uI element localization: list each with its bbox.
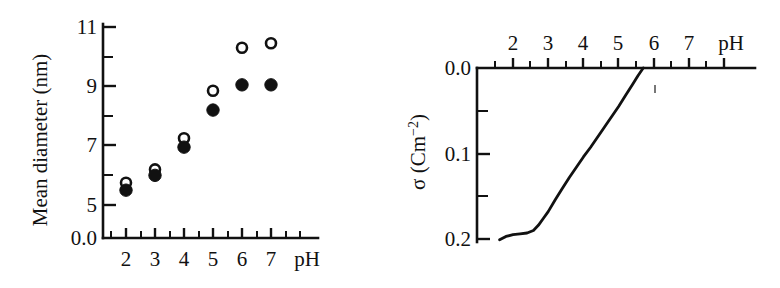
x-axis-title-left: pH	[294, 247, 320, 271]
x-tick-label-6: 6	[237, 247, 248, 271]
y-tick-label-0.0: 0.0	[445, 56, 471, 80]
y-tick-label-0.2: 0.2	[445, 227, 471, 251]
figure-container: Mean diameter (nm) 11 9 7 5 0.0	[0, 0, 780, 288]
sigma-ph-curve	[500, 68, 644, 240]
x-tick-label-7-right: 7	[684, 31, 695, 55]
data-point-open	[237, 43, 247, 53]
y-axis-title-unit-open: (Cm	[406, 136, 430, 179]
scatter-chart-mean-diameter: Mean diameter (nm) 11 9 7 5 0.0	[0, 0, 390, 288]
x-tick-label-2-right: 2	[508, 31, 519, 55]
y-tick-label-7: 7	[87, 133, 98, 157]
x-tick-label-4: 4	[179, 247, 190, 271]
data-point-group-left	[120, 38, 277, 196]
data-point-filled	[120, 184, 132, 196]
x-tick-label-4-right: 4	[578, 31, 589, 55]
data-point-filled	[265, 79, 277, 91]
x-tick-label-7: 7	[266, 247, 277, 271]
y-axis-ticks-right	[477, 111, 490, 239]
x-tick-label-2: 2	[121, 247, 132, 271]
y-tick-label-9: 9	[87, 74, 98, 98]
y-axis-title-unit-close: )	[406, 114, 430, 121]
x-tick-label-5-right: 5	[613, 31, 624, 55]
x-tick-label-3: 3	[150, 247, 161, 271]
y-axis-title-left: Mean diameter (nm)	[28, 54, 52, 227]
y-axis-origin-label-left: 0.0	[71, 226, 97, 250]
y-tick-label-0.1: 0.1	[445, 142, 471, 166]
y-axis-ticks-left	[103, 27, 116, 205]
chart-panel-left: Mean diameter (nm) 11 9 7 5 0.0	[0, 0, 390, 288]
x-tick-label-6-right: 6	[649, 31, 660, 55]
chart-panel-right: σ (Cm−2)	[390, 0, 780, 288]
x-tick-label-5: 5	[208, 247, 219, 271]
data-point-filled	[149, 169, 161, 181]
data-point-filled	[178, 141, 190, 153]
data-point-open	[266, 38, 276, 48]
x-axis-ticks-right	[495, 58, 724, 68]
x-tick-label-3-right: 3	[543, 31, 554, 55]
y-tick-label-11: 11	[77, 15, 97, 39]
x-axis-title-right: pH	[718, 31, 744, 55]
data-point-open	[208, 86, 218, 96]
x-axis-ticks-left	[111, 228, 300, 238]
data-point-filled	[236, 79, 248, 91]
data-point-filled	[207, 104, 219, 116]
line-chart-surface-charge: σ (Cm−2)	[390, 0, 780, 288]
y-axis-title-right: σ (Cm−2)	[406, 114, 430, 190]
y-tick-label-5: 5	[87, 193, 98, 217]
y-axis-title-symbol: σ	[406, 179, 430, 190]
y-axis-title-exponent: −2	[406, 121, 421, 136]
